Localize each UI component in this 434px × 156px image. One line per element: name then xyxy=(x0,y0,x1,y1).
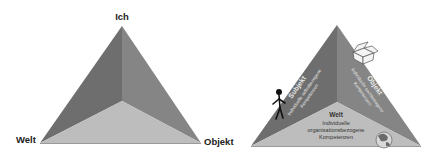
diagram-canvas: Ich Welt Objekt Subjekt Individuelle sel… xyxy=(0,0,434,156)
globe-icon xyxy=(376,132,392,148)
welt-line1: Individuelle xyxy=(322,120,350,126)
right-pyramid: Subjekt Individuelle selbstbezogene Komp… xyxy=(251,25,421,148)
welt-title: Welt xyxy=(329,111,343,118)
welt-line2: organisationsbezogene xyxy=(308,127,365,133)
welt-line3: Kompetenzen xyxy=(319,134,353,140)
box-icon xyxy=(353,42,378,64)
label-ich: Ich xyxy=(115,11,129,22)
label-welt: Welt xyxy=(16,134,37,145)
left-pyramid: Ich Welt Objekt xyxy=(16,11,234,147)
label-objekt: Objekt xyxy=(204,136,234,147)
